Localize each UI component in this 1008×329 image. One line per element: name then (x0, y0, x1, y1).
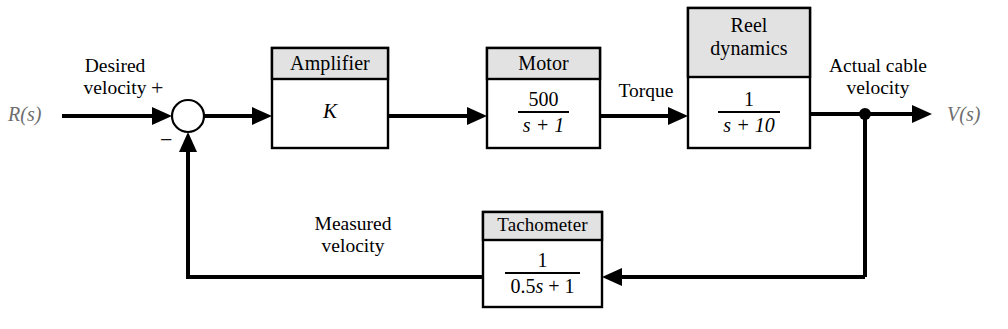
motor-fraction: 500 s + 1 (518, 88, 569, 137)
measured-velocity-label: Measured velocity (283, 213, 423, 257)
wire-tachometer-to-sum (179, 132, 483, 279)
motor-denominator: s + 1 (518, 111, 569, 136)
wire-feedback-to-tachometer (602, 268, 865, 286)
wire-input-to-sum (62, 107, 172, 125)
summing-junction (172, 100, 204, 132)
arrowhead-input (152, 107, 172, 125)
wire-reel-to-output (810, 105, 932, 123)
output-signal-label: V(s) (947, 103, 980, 125)
reel-dynamics-title-line1: Reel (730, 14, 767, 36)
reel-dynamics-transfer-function: 1 s + 10 (688, 88, 810, 137)
reel-dynamics-title: Reel dynamics (688, 14, 810, 60)
amplifier-gain: K (272, 100, 388, 124)
desired-velocity-line2: velocity (84, 77, 147, 98)
arrowhead-amplifier-in (252, 107, 272, 125)
block-diagram-canvas: R(s) V(s) Desired velocity + − Amplifier… (0, 0, 1008, 329)
arrowhead-tachometer-in (602, 268, 622, 286)
tachometer-denominator-suffix: + 1 (543, 275, 574, 297)
measured-velocity-line2: velocity (322, 235, 385, 256)
arrowhead-reel-in (668, 107, 688, 125)
sum-plus-sign: + (151, 76, 163, 101)
reel-dynamics-denominator: s + 10 (718, 111, 779, 136)
motor-numerator: 500 (518, 88, 569, 111)
motor-title: Motor (487, 52, 600, 74)
arrowhead-sum-feedback (179, 132, 197, 152)
actual-cable-velocity-line1: Actual cable (829, 55, 927, 76)
desired-velocity-line1: Desired (85, 55, 146, 76)
wire-motor-to-reel (600, 107, 688, 125)
reel-dynamics-fraction: 1 s + 10 (718, 88, 779, 137)
tachometer-title: Tachometer (483, 214, 602, 235)
actual-cable-velocity-line2: velocity (847, 77, 910, 98)
measured-velocity-line1: Measured (315, 213, 392, 234)
sum-minus-sign: − (160, 128, 172, 153)
actual-cable-velocity-label: Actual cable velocity (814, 55, 942, 99)
wire-sum-to-amplifier (204, 107, 272, 125)
arrowhead-motor-in (467, 107, 487, 125)
motor-transfer-function: 500 s + 1 (487, 88, 600, 137)
tachometer-denominator: 0.5s + 1 (505, 272, 579, 297)
wire-amplifier-to-motor (388, 107, 487, 125)
tachometer-denominator-prefix: 0.5 (510, 275, 535, 297)
input-signal-label: R(s) (8, 103, 41, 125)
tachometer-transfer-function: 1 0.5s + 1 (483, 249, 602, 298)
amplifier-title: Amplifier (272, 52, 388, 74)
torque-label: Torque (604, 80, 688, 102)
arrowhead-output (912, 105, 932, 123)
tachometer-numerator: 1 (505, 249, 579, 272)
reel-dynamics-numerator: 1 (718, 88, 779, 111)
tachometer-fraction: 1 0.5s + 1 (505, 249, 579, 298)
reel-dynamics-title-line2: dynamics (710, 37, 787, 59)
